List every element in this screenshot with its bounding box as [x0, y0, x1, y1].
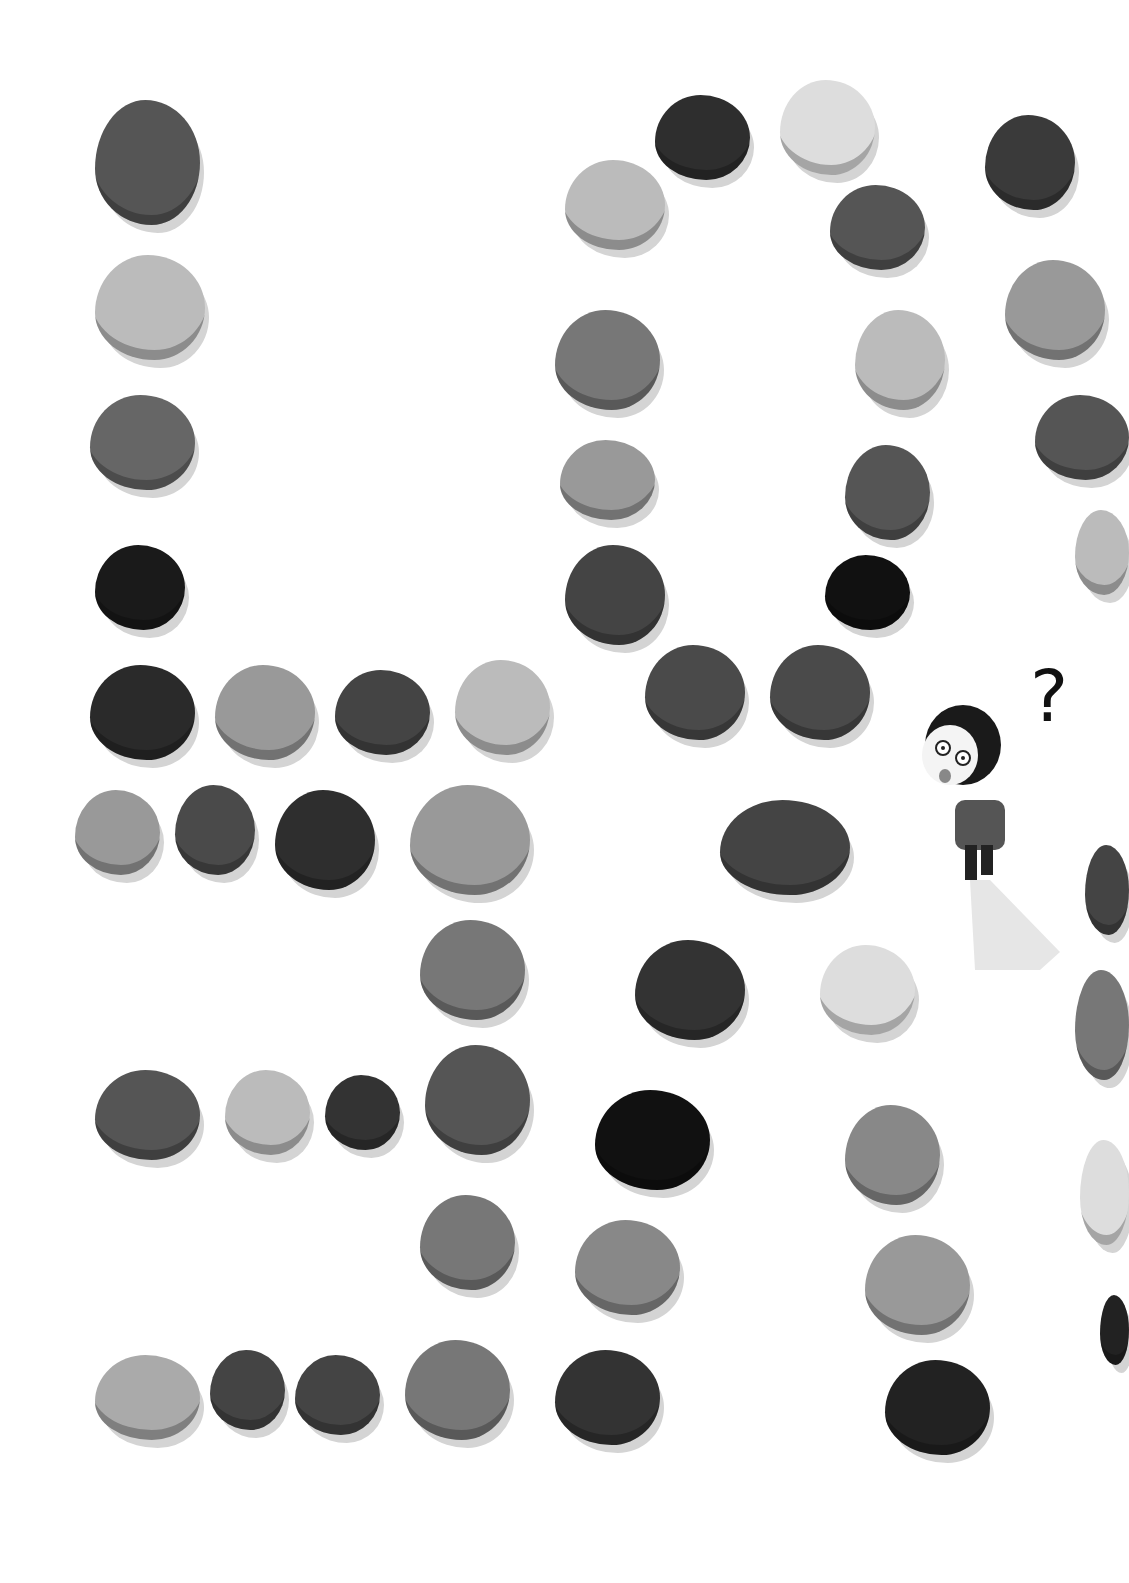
- stone: [565, 545, 665, 645]
- illustration-canvas: ?: [0, 0, 1129, 1583]
- stone: [295, 1355, 380, 1435]
- stone: [95, 255, 205, 360]
- stone: [275, 790, 375, 890]
- stone: [75, 790, 160, 875]
- stone: [555, 1350, 660, 1445]
- stone: [225, 1070, 310, 1155]
- stone: [575, 1220, 680, 1315]
- stone: [820, 945, 915, 1035]
- stone: [420, 920, 525, 1020]
- stone: [455, 660, 550, 755]
- stone: [410, 785, 530, 895]
- stone: [770, 645, 870, 740]
- stone: [325, 1075, 400, 1150]
- stone: [885, 1360, 990, 1455]
- stone: [1005, 260, 1105, 360]
- stone: [1100, 1295, 1129, 1365]
- stone: [95, 100, 200, 225]
- stone: [780, 80, 875, 175]
- stone: [425, 1045, 530, 1155]
- light-beam: [960, 880, 1060, 970]
- stone: [845, 445, 930, 540]
- stone: [95, 545, 185, 630]
- stone: [215, 665, 315, 760]
- stone: [175, 785, 255, 875]
- question-mark: ?: [1030, 660, 1068, 732]
- stone: [95, 1070, 200, 1160]
- stone: [405, 1340, 510, 1440]
- surprised-boy-figure: [915, 690, 1010, 890]
- stone: [985, 115, 1075, 210]
- stone: [645, 645, 745, 740]
- stone: [210, 1350, 285, 1430]
- stone: [595, 1090, 710, 1190]
- stone: [830, 185, 925, 270]
- stone: [95, 1355, 200, 1440]
- stone: [90, 395, 195, 490]
- stone: [1080, 1140, 1129, 1245]
- stone: [635, 940, 745, 1040]
- stone: [825, 555, 910, 630]
- stone: [720, 800, 850, 895]
- stone: [90, 665, 195, 760]
- stone: [560, 440, 655, 520]
- stone: [855, 310, 945, 410]
- stone: [1075, 970, 1129, 1080]
- stone: [335, 670, 430, 755]
- stone: [845, 1105, 940, 1205]
- stone: [555, 310, 660, 410]
- stone: [1085, 845, 1129, 935]
- stone: [420, 1195, 515, 1290]
- stone: [655, 95, 750, 180]
- stone: [565, 160, 665, 250]
- stone: [1075, 510, 1129, 595]
- stone: [1035, 395, 1129, 480]
- stone: [865, 1235, 970, 1335]
